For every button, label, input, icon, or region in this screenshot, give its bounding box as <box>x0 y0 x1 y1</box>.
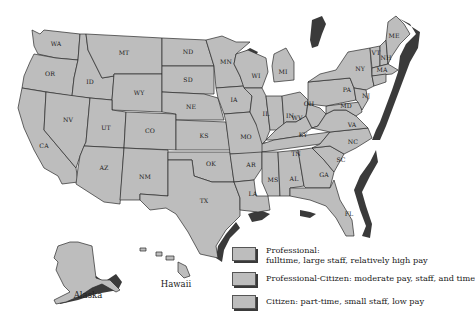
legend-swatch-professional <box>232 247 256 261</box>
label-sd: SD <box>183 76 192 83</box>
label-sc: SC <box>336 156 345 163</box>
label-ne: NE <box>186 103 197 110</box>
label-ok: OK <box>206 160 216 167</box>
label-nj: NJ <box>362 92 371 100</box>
hawaii-inset: Hawaii <box>140 248 191 289</box>
legend-item-professional-citizen: Professional-Citizen: moderate pay, staf… <box>232 270 475 286</box>
label-ms: MS <box>268 176 279 183</box>
legend-label-professional-title: Professional: <box>266 245 428 255</box>
states <box>18 16 410 258</box>
label-nd: ND <box>183 48 194 55</box>
state-hi <box>178 262 190 278</box>
state-ct <box>372 74 386 86</box>
label-ut: UT <box>101 124 111 131</box>
legend-label-professional-citizen: Professional-Citizen: moderate pay, staf… <box>266 273 475 283</box>
label-oh: OH <box>304 100 315 107</box>
legend-label-citizen: Citizen: part-time, small staff, low pay <box>266 296 424 306</box>
state-ms <box>262 152 280 196</box>
label-tx: TX <box>200 197 209 204</box>
label-id: ID <box>86 78 94 85</box>
label-la: LA <box>249 190 258 197</box>
label-va: VA <box>347 121 357 128</box>
label-co: CO <box>145 127 155 134</box>
label-ky: KY <box>299 131 309 138</box>
label-wv: WV <box>291 114 302 121</box>
legend-item-citizen: Citizen: part-time, small staff, low pay <box>232 293 424 309</box>
label-pa: PA <box>343 86 352 93</box>
label-tn: TN <box>291 150 301 157</box>
label-nc: NC <box>348 138 359 145</box>
label-wa: WA <box>51 40 62 47</box>
label-ia: IA <box>230 96 238 103</box>
label-me: ME <box>388 32 399 39</box>
label-or: OR <box>45 70 55 77</box>
label-wi: WI <box>251 72 260 79</box>
hawaii-label: Hawaii <box>161 279 192 289</box>
state-fl <box>290 180 354 236</box>
label-mi: MI <box>279 68 288 75</box>
label-md: MD <box>340 102 352 109</box>
label-nm: NM <box>139 173 152 180</box>
alaska-label: Alaska <box>73 290 103 300</box>
label-ks: KS <box>199 132 208 139</box>
legend-swatch-citizen <box>232 295 256 309</box>
legend-label-professional-desc: fulltime, large staff, relatively high p… <box>266 255 428 265</box>
label-ca: CA <box>39 142 49 149</box>
label-az: AZ <box>99 164 110 171</box>
state-mi <box>272 48 294 82</box>
label-ny: NY <box>355 65 366 72</box>
label-mt: MT <box>119 49 130 56</box>
label-wy: WY <box>134 89 145 96</box>
label-il: IL <box>263 110 270 117</box>
legend-swatch-professional-citizen <box>232 272 256 286</box>
label-mn: MN <box>220 58 232 65</box>
label-mo: MO <box>240 133 252 140</box>
label-nh: NH <box>380 54 392 61</box>
legend-item-professional: Professional: fulltime, large staff, rel… <box>232 245 428 265</box>
label-al: AL <box>289 175 299 182</box>
label-ar: AR <box>245 161 256 168</box>
state-az <box>76 146 124 204</box>
label-nv: NV <box>63 116 74 123</box>
label-ga: GA <box>319 171 329 178</box>
label-ma: MA <box>376 66 387 73</box>
label-fl: FL <box>345 210 354 217</box>
alaska-inset: Alaska <box>54 242 122 304</box>
